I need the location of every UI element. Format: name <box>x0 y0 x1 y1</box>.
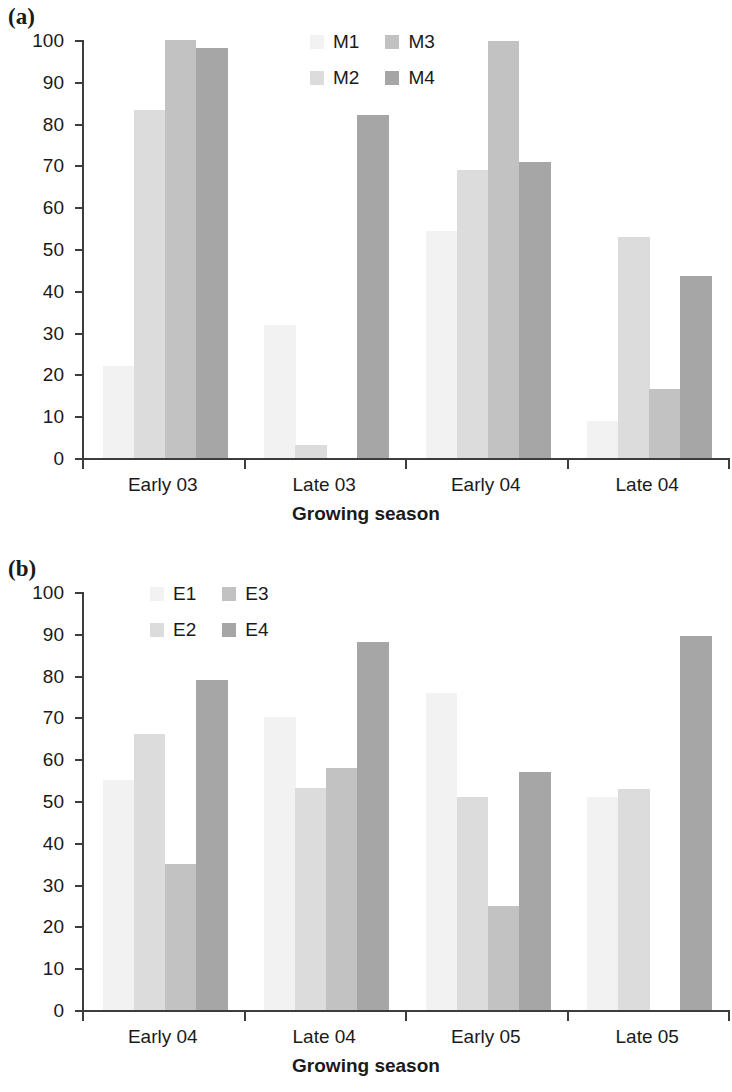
y-tick-label-b-100: 100 <box>20 582 64 604</box>
y-tick-b-0: 0 <box>75 1010 82 1012</box>
y-tick-a-80: 80 <box>75 124 82 126</box>
bar-group-container-a <box>84 40 730 458</box>
legend-label-E4: E4 <box>245 619 268 641</box>
y-tick-b-40: 40 <box>75 843 82 845</box>
x-tick-a-1 <box>244 460 246 469</box>
y-tick-b-30: 30 <box>75 885 82 887</box>
y-tick-a-50: 50 <box>75 249 82 251</box>
y-tick-label-b-40: 40 <box>20 833 64 855</box>
bar-b-E4-late-04 <box>357 642 389 1010</box>
bar-a-M2-early-04 <box>457 170 489 458</box>
legend-item-E3[interactable]: E3 <box>222 583 268 605</box>
legend-swatch-M1 <box>310 35 324 49</box>
legend-swatch-M2 <box>310 71 324 85</box>
y-tick-a-100: 100 <box>75 40 82 42</box>
x-tick-a-0 <box>82 460 84 469</box>
bar-a-M1-late-03 <box>264 325 296 458</box>
x-category-label-b-2: Early 05 <box>451 1026 521 1048</box>
bar-a-M4-late-04 <box>680 276 712 458</box>
legend-label-E2: E2 <box>173 619 196 641</box>
bar-a-M3-early-03 <box>165 40 197 458</box>
legend-swatch-M4 <box>385 71 399 85</box>
bar-b-E3-late-04 <box>326 768 358 1010</box>
bar-b-E4-early-05 <box>519 772 551 1010</box>
legend-label-M3: M3 <box>408 31 434 53</box>
y-tick-label-a-30: 30 <box>20 323 64 345</box>
bar-b-E1-late-05 <box>587 797 619 1010</box>
y-tick-a-70: 70 <box>75 165 82 167</box>
x-axis-title-a: Growing season <box>0 503 732 525</box>
legend-item-M2[interactable]: M2 <box>310 67 359 89</box>
y-tick-a-10: 10 <box>75 416 82 418</box>
bar-a-M3-early-04 <box>488 41 520 458</box>
bar-a-M2-late-04 <box>618 237 650 458</box>
y-tick-b-20: 20 <box>75 926 82 928</box>
legend-item-E2[interactable]: E2 <box>150 619 196 641</box>
bar-b-E2-late-04 <box>295 788 327 1010</box>
y-tick-a-90: 90 <box>75 82 82 84</box>
bar-b-E3-early-04 <box>165 864 197 1010</box>
plot-area-b: 0102030405060708090100 <box>82 592 730 1012</box>
y-tick-a-60: 60 <box>75 207 82 209</box>
y-tick-label-b-90: 90 <box>20 624 64 646</box>
legend-label-M1: M1 <box>333 31 359 53</box>
bar-b-E1-early-05 <box>426 693 458 1010</box>
x-category-label-a-3: Late 04 <box>616 474 679 496</box>
y-tick-label-b-60: 60 <box>20 749 64 771</box>
panel-b-label: (b) <box>8 556 36 582</box>
x-tick-a-2 <box>405 460 407 469</box>
y-tick-label-a-70: 70 <box>20 155 64 177</box>
chart-panel-b: (b) 0102030405060708090100 % of crop are… <box>0 552 732 1092</box>
y-tick-label-a-40: 40 <box>20 281 64 303</box>
legend-a: M1M3M2M4 <box>310 24 435 96</box>
chart-panel-a: (a) 0102030405060708090100 % of crop are… <box>0 0 732 540</box>
x-category-label-a-1: Late 03 <box>293 474 356 496</box>
bar-a-M1-early-04 <box>426 231 458 458</box>
y-tick-label-a-50: 50 <box>20 239 64 261</box>
y-tick-label-a-0: 0 <box>20 448 64 470</box>
x-tick-b-end <box>728 1012 730 1021</box>
bar-a-M4-late-03 <box>357 115 389 458</box>
bar-b-E2-early-05 <box>457 797 489 1010</box>
legend-swatch-E1 <box>150 587 164 601</box>
legend-label-M2: M2 <box>333 67 359 89</box>
bar-b-E3-early-05 <box>488 906 520 1010</box>
x-tick-b-3 <box>567 1012 569 1021</box>
bar-b-E1-early-04 <box>103 780 135 1010</box>
legend-b: E1E3E2E4 <box>150 576 269 648</box>
x-tick-b-2 <box>405 1012 407 1021</box>
y-tick-a-30: 30 <box>75 333 82 335</box>
y-tick-label-b-50: 50 <box>20 791 64 813</box>
y-tick-a-20: 20 <box>75 374 82 376</box>
x-tick-b-1 <box>244 1012 246 1021</box>
legend-item-M4[interactable]: M4 <box>385 67 434 89</box>
bar-a-M2-early-03 <box>134 110 166 458</box>
legend-item-M1[interactable]: M1 <box>310 31 359 53</box>
legend-swatch-E3 <box>222 587 236 601</box>
x-category-label-b-3: Late 05 <box>616 1026 679 1048</box>
legend-item-M3[interactable]: M3 <box>385 31 434 53</box>
legend-item-E4[interactable]: E4 <box>222 619 268 641</box>
y-tick-b-70: 70 <box>75 717 82 719</box>
legend-item-E1[interactable]: E1 <box>150 583 196 605</box>
panel-a-label: (a) <box>8 4 35 30</box>
y-tick-a-0: 0 <box>75 458 82 460</box>
x-tick-b-0 <box>82 1012 84 1021</box>
y-tick-label-a-80: 80 <box>20 114 64 136</box>
bar-a-M4-early-04 <box>519 162 551 458</box>
legend-label-M4: M4 <box>408 67 434 89</box>
legend-swatch-E4 <box>222 623 236 637</box>
y-tick-label-a-10: 10 <box>20 406 64 428</box>
bar-a-M1-late-04 <box>587 421 619 458</box>
y-tick-b-80: 80 <box>75 676 82 678</box>
bar-a-M2-late-03 <box>295 445 327 458</box>
y-tick-a-40: 40 <box>75 291 82 293</box>
bar-group-container-b <box>84 592 730 1010</box>
bar-b-E2-late-05 <box>618 789 650 1010</box>
y-tick-label-a-20: 20 <box>20 364 64 386</box>
legend-swatch-M3 <box>385 35 399 49</box>
plot-area-a: 0102030405060708090100 <box>82 40 730 460</box>
bar-b-E4-early-04 <box>196 680 228 1010</box>
y-tick-label-b-20: 20 <box>20 916 64 938</box>
x-category-label-b-0: Early 04 <box>128 1026 198 1048</box>
